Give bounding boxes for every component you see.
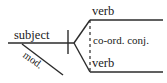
- fork-lower-line: [74, 43, 90, 72]
- verb-bottom-label: verb: [92, 57, 114, 70]
- subject-label: subject: [14, 29, 49, 42]
- verb-top-label: verb: [92, 5, 114, 18]
- sentence-diagram: subject verb verb co-ord. conj. mod.: [0, 0, 167, 83]
- fork-upper-line: [74, 20, 90, 43]
- coordinating-conjunction-label: co-ord. conj.: [93, 35, 149, 46]
